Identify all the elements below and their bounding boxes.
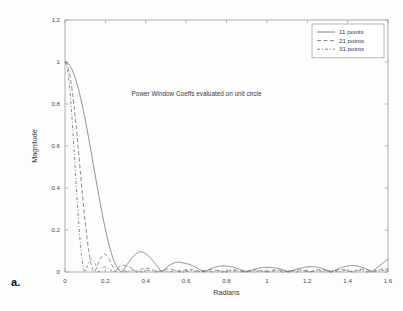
legend-label: 11 points <box>339 28 364 35</box>
y-tick-label: 1.2 <box>51 16 60 23</box>
y-tick-label: 0.8 <box>51 100 60 107</box>
x-tick-label: 0.2 <box>101 277 110 284</box>
x-tick-label: 0.8 <box>222 277 231 284</box>
x-tick-label: 1.6 <box>384 277 393 284</box>
y-tick-label: 0.6 <box>51 142 60 149</box>
figure-panel: 00.20.40.60.811.21.41.600.20.40.60.811.2… <box>0 0 403 311</box>
legend-label: 21 points <box>339 37 364 44</box>
chart-legend[interactable]: 11 points21 points31 points <box>312 24 384 58</box>
x-tick-label: 1.2 <box>303 277 312 284</box>
y-axis-title: Magnitude <box>30 129 39 163</box>
x-axis-ticks: 00.20.40.60.811.21.41.6 <box>63 20 393 284</box>
chart-canvas: 00.20.40.60.811.21.41.600.20.40.60.811.2… <box>0 0 403 311</box>
x-tick-label: 0 <box>63 277 67 284</box>
x-tick-label: 1.4 <box>343 277 352 284</box>
panel-label: a. <box>11 276 21 288</box>
y-tick-label: 0.2 <box>51 226 60 233</box>
x-tick-label: 0.6 <box>182 277 191 284</box>
x-tick-label: 0.4 <box>141 277 150 284</box>
y-tick-label: 0.4 <box>51 184 60 191</box>
y-tick-label: 0 <box>57 268 61 275</box>
y-tick-label: 1 <box>57 58 61 65</box>
legend-label: 31 points <box>339 45 364 52</box>
x-axis-title: Radians <box>213 288 240 297</box>
x-tick-label: 1 <box>265 277 269 284</box>
chart-annotation: Power Window Coeffs evaluated on unit ci… <box>132 90 262 97</box>
